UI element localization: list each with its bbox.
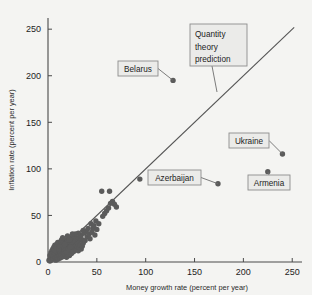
data-point	[70, 231, 75, 236]
callout-leader-line	[269, 141, 282, 154]
y-tick-label: 150	[26, 118, 41, 128]
data-point	[137, 176, 142, 181]
y-axis-label: Inflation rate (percent per year)	[7, 89, 16, 190]
data-point	[114, 204, 119, 209]
data-point	[106, 205, 111, 210]
x-axis-ticks	[48, 258, 292, 262]
y-tick-label: 200	[26, 71, 41, 81]
x-tick-label: 150	[187, 267, 202, 277]
callout-quantity-theory-prediction: Quantitytheoryprediction	[190, 24, 247, 92]
data-point	[62, 242, 67, 247]
callout-label-line: prediction	[195, 55, 231, 64]
y-tick-label: 250	[26, 24, 41, 34]
data-point	[87, 236, 92, 241]
callout-armenia: Armenia	[248, 172, 290, 190]
callout-label: Ukraine	[235, 137, 264, 146]
callout-leader-line	[158, 69, 173, 81]
data-point	[68, 244, 73, 249]
x-axis-tick-labels: 050100150200250	[45, 267, 299, 277]
callout-label-line: theory	[195, 43, 219, 52]
data-point	[107, 189, 112, 194]
data-point	[94, 227, 99, 232]
y-tick-label: 100	[26, 164, 41, 174]
data-point	[108, 201, 113, 206]
callout-label: Belarus	[124, 65, 152, 74]
scatter-plot: 050100150200250 050100150200250 Money gr…	[0, 0, 312, 295]
chart-page: 050100150200250 050100150200250 Money gr…	[0, 0, 312, 295]
x-tick-label: 200	[236, 267, 251, 277]
callout-belarus: Belarus	[118, 61, 173, 80]
data-point	[99, 189, 104, 194]
callout-label-line: Quantity	[195, 30, 226, 39]
y-axis-tick-labels: 050100150200250	[26, 24, 41, 267]
callout-label: Armenia	[254, 179, 285, 188]
x-tick-label: 50	[92, 267, 102, 277]
x-tick-label: 100	[138, 267, 153, 277]
x-tick-label: 250	[285, 267, 300, 277]
y-tick-label: 0	[36, 257, 41, 267]
callout-leader-line	[212, 66, 217, 92]
data-point	[80, 228, 85, 233]
x-tick-label: 0	[45, 267, 50, 277]
data-point	[60, 235, 65, 240]
y-axis-ticks	[48, 29, 52, 215]
callout-leader-line	[201, 178, 218, 184]
callout-ukraine: Ukraine	[229, 133, 282, 154]
x-axis-label: Money growth rate (percent per year)	[126, 283, 248, 292]
callout-group: BelarusUkraineArmeniaAzerbaijanQuantityt…	[118, 24, 290, 190]
data-point	[96, 221, 101, 226]
callout-azerbaijan: Azerbaijan	[148, 170, 218, 185]
data-point	[92, 232, 97, 237]
data-point	[67, 237, 72, 242]
y-tick-label: 50	[31, 211, 41, 221]
callout-label: Azerbaijan	[155, 174, 194, 183]
